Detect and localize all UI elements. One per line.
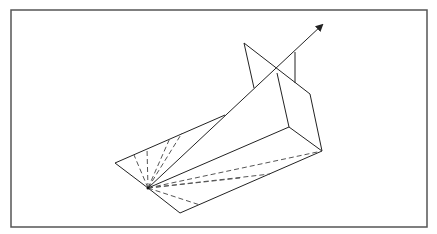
- dashed-edge: [148, 188, 200, 205]
- apex-point: [147, 187, 150, 190]
- solid-edge: [115, 163, 148, 188]
- solid-edge: [310, 94, 322, 151]
- dashed-edge: [148, 178, 240, 188]
- diagram-frame: [11, 10, 427, 227]
- solid-edge: [115, 115, 225, 163]
- dashed-edge: [147, 148, 148, 188]
- solid-edge: [180, 151, 322, 213]
- solid-edge: [148, 127, 289, 188]
- dashed-edge: [148, 138, 170, 188]
- direction-arrow: [148, 25, 322, 188]
- dashed-edges: [134, 133, 322, 205]
- solid-edge: [277, 73, 289, 127]
- geometric-diagram: [0, 0, 437, 234]
- solid-edge: [289, 127, 322, 151]
- dashed-edge: [148, 151, 322, 188]
- solid-edge: [148, 188, 180, 213]
- solid-edges: [115, 43, 322, 213]
